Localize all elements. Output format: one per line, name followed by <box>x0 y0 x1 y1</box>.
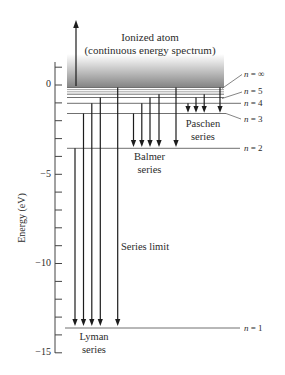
y-tick-label-minus5: −5 <box>40 168 51 179</box>
y-tick-label-minus10: −10 <box>35 257 51 268</box>
level-label-n-3: n = 3 <box>244 114 263 124</box>
lyman-label: Lyman <box>79 331 109 342</box>
paschen-label-series: series <box>191 131 215 142</box>
level-label-n-4: n = 4 <box>244 98 263 108</box>
level-label-n-inf: n = ∞ <box>244 69 265 79</box>
series-limit-label: Series limit <box>121 241 169 252</box>
leader-n-5 <box>222 92 242 99</box>
continuum-subtitle: (continuous energy spectrum) <box>84 44 215 57</box>
level-label-n-2: n = 2 <box>244 143 263 153</box>
energy-level-diagram: Ionized atom (continuous energy spectrum… <box>0 0 285 375</box>
balmer-label-series: series <box>138 164 162 175</box>
balmer-label: Balmer <box>134 151 165 162</box>
level-label-n-5: n = 5 <box>244 86 263 96</box>
lyman-series-arrows <box>72 88 120 327</box>
y-axis-ticks <box>55 67 62 353</box>
y-tick-label-0: 0 <box>46 78 51 89</box>
leader-n-3 <box>226 114 241 120</box>
y-axis-label: Energy (eV) <box>16 193 28 243</box>
y-tick-label-minus15: −15 <box>35 346 51 357</box>
paschen-series-arrows <box>185 88 222 113</box>
paschen-label: Paschen <box>186 118 221 129</box>
lyman-label-series: series <box>82 344 106 355</box>
continuum-title: Ionized atom <box>121 31 179 43</box>
y-axis: 0 −5 −10 −15 Energy (eV) <box>16 62 62 357</box>
balmer-series-arrows <box>131 88 179 148</box>
leader-n-inf <box>222 75 242 89</box>
continuum-band <box>67 54 224 87</box>
level-label-n-1: n = 1 <box>244 323 263 333</box>
